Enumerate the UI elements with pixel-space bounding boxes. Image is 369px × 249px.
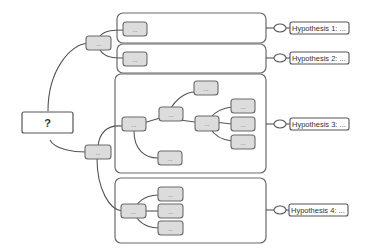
root-node[interactable]: ? [22, 112, 73, 133]
node-label: ... [167, 156, 172, 162]
node-label: ... [204, 121, 209, 127]
node-group3-c[interactable]: ... [194, 81, 218, 95]
root-label: ? [44, 117, 51, 129]
node-label: ... [168, 192, 173, 198]
node-upper[interactable]: ... [86, 36, 111, 50]
node-group4-c[interactable]: ... [158, 204, 183, 218]
node-group3-h[interactable]: ... [231, 135, 255, 149]
node-group3-b[interactable]: ... [159, 107, 183, 121]
node-label: ... [96, 41, 101, 47]
node-group3-g[interactable]: ... [231, 117, 255, 131]
node-label: ... [132, 57, 137, 63]
connector-4-icon [274, 206, 286, 214]
node-label: ... [95, 150, 100, 156]
node-group3-a[interactable]: ... [122, 117, 146, 131]
connector-1-icon [274, 24, 286, 32]
node-group3-d[interactable]: ... [195, 116, 219, 131]
hypothesis-3[interactable]: Hypothesis 3: ... [290, 118, 349, 130]
connector-2-icon [274, 54, 286, 62]
hypothesis-4[interactable]: Hypothesis 4: ... [289, 204, 348, 216]
hypothesis-2[interactable]: Hypothesis 2: ... [290, 52, 349, 64]
node-group4-d[interactable]: ... [158, 221, 183, 235]
hypothesis-label: Hypothesis 3: ... [292, 120, 346, 129]
node-group1[interactable]: ... [123, 22, 147, 36]
hypothesis-tree-diagram: ? ... ... ... ... ... ... ... ... ... [0, 0, 369, 249]
node-label: ... [168, 226, 173, 232]
node-group2[interactable]: ... [123, 52, 147, 66]
node-label: ... [240, 140, 245, 146]
hypothesis-label: Hypothesis 4: ... [291, 206, 345, 215]
node-group4-a[interactable]: ... [121, 204, 146, 218]
node-label: ... [168, 209, 173, 215]
hypothesis-label: Hypothesis 2: ... [292, 54, 346, 63]
node-label: ... [132, 27, 137, 33]
node-label: ... [131, 122, 136, 128]
node-group3-f[interactable]: ... [231, 99, 255, 113]
node-group4-b[interactable]: ... [158, 187, 183, 201]
node-label: ... [168, 112, 173, 118]
node-lower[interactable]: ... [85, 145, 111, 159]
node-label: ... [203, 86, 208, 92]
node-label: ... [131, 209, 136, 215]
node-group3-e[interactable]: ... [158, 151, 182, 165]
hypothesis-1[interactable]: Hypothesis 1: ... [290, 22, 349, 34]
node-label: ... [240, 122, 245, 128]
connector-3-icon [274, 120, 286, 128]
node-label: ... [240, 104, 245, 110]
hypothesis-label: Hypothesis 1: ... [292, 24, 346, 33]
